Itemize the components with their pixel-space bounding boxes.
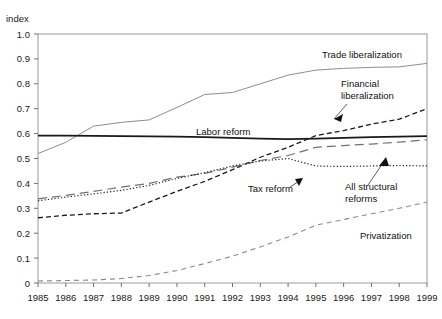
annotation-label: reforms [345,193,377,204]
x-tick-label: 1987 [83,292,104,303]
x-tick-label: 1995 [305,292,326,303]
x-axis: 1985198619871988198919901991199219931994… [27,283,437,303]
annotation-label: Privatization [360,230,412,241]
y-tick-label: 0.7 [17,103,30,114]
x-tick-label: 1990 [166,292,187,303]
x-tick-label: 1996 [333,292,354,303]
y-tick-label: 0.1 [17,253,30,264]
plot-frame [38,34,427,283]
y-tick-label: 0.8 [17,78,30,89]
y-tick-label: 0.5 [17,153,30,164]
economic-reform-index-line-chart: index 00.10.20.30.40.50.60.70.80.91.0 19… [0,0,442,319]
y-tick-label: 0.3 [17,203,30,214]
annotation-label: Tax reform [248,183,293,194]
x-tick-label: 1994 [278,292,299,303]
x-tick-label: 1988 [111,292,132,303]
annotation-label: Labor reform [196,126,250,137]
x-tick-label: 1991 [194,292,215,303]
chart-container: index 00.10.20.30.40.50.60.70.80.91.0 19… [0,0,442,319]
y-tick-label: 0.9 [17,53,30,64]
x-tick-label: 1985 [27,292,48,303]
y-tick-label: 0 [25,278,30,289]
y-axis-unit-label: index [6,13,29,24]
y-tick-label: 0.4 [17,178,30,189]
annotation-label: Financial [341,78,379,89]
x-tick-label: 1997 [361,292,382,303]
y-tick-label: 1.0 [17,29,30,40]
x-tick-label: 1999 [416,292,437,303]
x-tick-label: 1986 [55,292,76,303]
annotation-label: All structural [345,181,397,192]
x-tick-label: 1998 [389,292,410,303]
y-tick-label: 0.2 [17,228,30,239]
annotation-label: liberalization [341,90,394,101]
x-tick-label: 1993 [250,292,271,303]
annotation-label: Trade liberalization [322,49,402,60]
y-tick-label: 0.6 [17,128,30,139]
x-tick-label: 1989 [139,292,160,303]
x-tick-label: 1992 [222,292,243,303]
y-axis: 00.10.20.30.40.50.60.70.80.91.0 [17,29,38,289]
